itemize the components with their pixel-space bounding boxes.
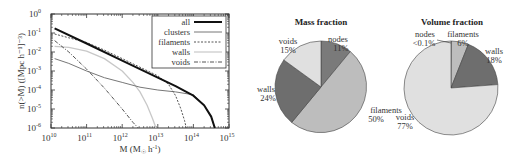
mass-pct-voids: 15% xyxy=(280,45,296,55)
mass-function-chart: 101010111012101310141015 10010-110-210-3… xyxy=(16,8,235,155)
y-tick-label: 10-3 xyxy=(27,65,41,76)
figure: 101010111012101310141015 10010-110-210-3… xyxy=(0,0,511,163)
x-axis-label: M (M☉ h-1) xyxy=(119,144,160,155)
legend: all clusters filaments walls voids xyxy=(152,16,226,68)
mass-pct-filaments: 50% xyxy=(368,114,384,124)
legend-label-voids: voids xyxy=(172,57,190,67)
legend-label-filaments: filaments xyxy=(158,37,190,47)
x-tick-label: 1012 xyxy=(113,132,128,143)
legend-label-walls: walls xyxy=(172,47,190,57)
x-tick-label: 1014 xyxy=(184,132,199,143)
volume-pie-slices xyxy=(404,41,498,135)
y-tick-label: 10-5 xyxy=(27,103,41,114)
x-tick-label: 1013 xyxy=(148,132,163,143)
mass-pct-nodes: 11% xyxy=(333,43,348,53)
y-tick-label: 10-6 xyxy=(27,122,41,133)
curve-voids xyxy=(55,41,139,128)
mass-fraction-title: Mass fraction xyxy=(295,17,348,27)
y-tick-label: 10-4 xyxy=(27,84,41,95)
volume-pct-nodes: <0.1% xyxy=(413,38,436,48)
y-tick-label: 100 xyxy=(29,8,41,19)
y-tick-label: 10-2 xyxy=(27,46,41,57)
volume-pct-walls: 18% xyxy=(486,55,502,65)
y-axis-label: n(>M) ([Mpc h⁻¹]⁻³) xyxy=(16,33,26,109)
volume-fraction-pie: Volume fraction nodes <0.1% filaments 6%… xyxy=(396,17,503,135)
volume-pct-voids: 77% xyxy=(397,121,413,131)
mass-pct-walls: 24% xyxy=(260,93,276,103)
legend-label-all: all xyxy=(182,17,191,27)
volume-fraction-title: Volume fraction xyxy=(421,17,483,27)
mass-fraction-pie: Mass fraction nodes 11% filaments 50% wa… xyxy=(257,17,402,133)
x-tick-label: 1015 xyxy=(220,132,235,143)
y-tick-label: 10-1 xyxy=(27,27,41,38)
volume-pct-filaments: 6% xyxy=(457,38,468,48)
x-tick-label: 1010 xyxy=(42,132,57,143)
x-tick-label: 1011 xyxy=(77,132,92,143)
legend-label-clusters: clusters xyxy=(164,27,190,37)
